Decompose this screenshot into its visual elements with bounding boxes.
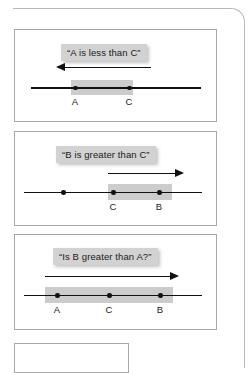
panel-2-point-dot-unlabeled (61, 190, 66, 195)
panel-1-point-label-a: A (66, 96, 84, 107)
panel-3-arrow-head-right-icon (170, 272, 179, 280)
panel-1-caption: “A is less than C” (61, 44, 147, 61)
panel-1-arrow-head-left-icon (56, 63, 65, 71)
panel-2-arrow-head-right-icon (175, 169, 184, 177)
panel-3-point-dot-b (158, 293, 163, 298)
panel-1-point-label-c: C (120, 96, 138, 107)
panel-2-content: “B is greater than C” C B (15, 132, 216, 225)
panel-3-content: “Is B greater than A?” A C B (15, 235, 216, 329)
outer-frame-top-edge (13, 8, 218, 9)
panel-1-number-line (31, 87, 201, 89)
panel-3-arrow-shaft (45, 276, 173, 278)
panel-1-content: “A is less than C” A C (15, 30, 216, 121)
panel-1-arrow-shaft (65, 67, 151, 69)
statement-panel-1: “A is less than C” A C (14, 29, 217, 122)
panel-3-point-label-a: A (48, 304, 66, 315)
panel-2-arrow-shaft (108, 173, 179, 175)
panel-3-number-line (24, 295, 202, 297)
panel-2-point-dot-c (111, 190, 116, 195)
panel-2-point-label-c: C (104, 201, 122, 212)
panel-1-point-dot-c (127, 86, 132, 91)
panel-2-point-label-b: B (150, 201, 168, 212)
statement-panel-3: “Is B greater than A?” A C B (14, 234, 217, 330)
panel-3-point-dot-c (107, 293, 112, 298)
panel-3-caption: “Is B greater than A?” (53, 248, 158, 265)
panel-3-point-label-c: C (100, 304, 118, 315)
panel-2-point-dot-b (157, 190, 162, 195)
panel-3-point-dot-a (55, 293, 60, 298)
statement-panel-4-partial (14, 343, 129, 373)
panel-1-point-dot-a (73, 86, 78, 91)
panel-3-point-label-b: B (151, 304, 169, 315)
statement-panel-2: “B is greater than C” C B (14, 131, 217, 226)
panel-2-caption: “B is greater than C” (56, 146, 156, 163)
